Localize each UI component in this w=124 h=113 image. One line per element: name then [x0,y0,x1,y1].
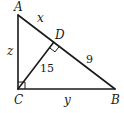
segment-label-cd: 15 [40,62,54,75]
edge-ab [18,15,115,89]
segment-label-cb: y [63,93,71,107]
triangle-diagram: A D C B x 9 15 z y [0,0,124,113]
vertex-label-c: C [14,93,23,107]
segment-label-ac: z [6,44,14,58]
right-angle-mark-d [50,46,60,52]
segment-label-db: 9 [86,53,93,66]
segment-label-ad: x [37,11,44,25]
vertex-label-d: D [54,28,65,42]
vertex-label-a: A [13,0,23,14]
vertex-label-b: B [110,93,120,107]
